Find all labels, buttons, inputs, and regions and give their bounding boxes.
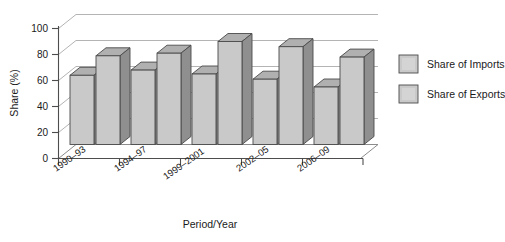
y-tick-label-40: 40: [37, 101, 49, 112]
y-tick-label-20: 20: [37, 127, 49, 138]
legend-label-exports: Share of Exports: [427, 88, 505, 100]
bar-exports-2006-09: [340, 49, 374, 144]
legend-item-share-of-imports[interactable]: Share of Imports: [399, 55, 505, 73]
bar-exports-2002-05: [279, 39, 313, 145]
bar-group-1994-97: [131, 45, 191, 144]
legend: Share of Imports Share of Exports: [399, 55, 505, 103]
bar-group-2006-09: [314, 49, 374, 144]
bar-chart: 100 80 60 40 20 0 Share (%) 1990–93 1994…: [0, 0, 505, 242]
x-axis: 1990–93 1994–97 1999–2001 2002–05 2006–0…: [51, 143, 363, 230]
bar-exports-1994-97: [157, 45, 191, 144]
bar-group-1990-93: [70, 48, 130, 145]
bar-exports-1999-2001: [218, 34, 252, 145]
y-tick-label-80: 80: [37, 49, 49, 60]
chart-canvas: 100 80 60 40 20 0 Share (%) 1990–93 1994…: [0, 0, 505, 242]
legend-swatch-imports-inner: [402, 58, 415, 70]
bar-group-2002-05: [253, 39, 313, 145]
x-axis-title: Period/Year: [183, 218, 238, 230]
x-tick-label-1999-2001: 1999–2001: [161, 145, 206, 181]
bar-group-1999-2001: [192, 34, 252, 145]
legend-item-share-of-exports[interactable]: Share of Exports: [399, 85, 505, 103]
y-axis: 100 80 60 40 20 0 Share (%): [8, 23, 59, 164]
bar-exports-1990-93: [96, 48, 130, 145]
y-tick-label-60: 60: [37, 75, 49, 86]
y-axis-title: Share (%): [8, 69, 20, 116]
y-tick-label-100: 100: [31, 23, 48, 34]
legend-swatch-exports-inner: [402, 88, 415, 100]
gridline-100: [59, 15, 379, 29]
y-tick-label-0: 0: [42, 153, 48, 164]
legend-label-imports: Share of Imports: [427, 58, 505, 70]
